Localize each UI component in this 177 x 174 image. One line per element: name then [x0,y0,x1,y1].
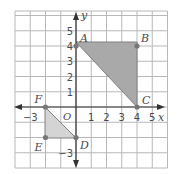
y-tick-label: −3 [58,148,73,159]
coordinate-plane: −312345 12345−3 x y O ABCDEF [0,0,177,174]
x-tick-label: 4 [134,112,140,123]
y-axis-label: y [80,9,88,22]
x-axis-arrow-right-icon [157,104,165,110]
point-label-f: F [34,93,43,106]
point-a [73,43,78,48]
point-c [134,104,139,109]
y-tick-label: 3 [67,56,73,67]
point-e [43,135,48,140]
y-axis-arrow-down-icon [73,160,79,168]
point-label-c: C [142,94,151,107]
x-axis-label: x [158,111,165,124]
x-tick-label: −3 [23,112,38,123]
y-tick-label: 1 [67,87,73,98]
point-b [134,43,139,48]
x-tick-label: 2 [103,112,109,123]
x-tick-label: 3 [119,112,125,123]
point-label-d: D [79,139,89,152]
point-label-a: A [79,32,88,45]
origin-label: O [63,111,71,122]
x-tick-label: 1 [88,112,94,123]
x-tick-labels: −312345 [23,112,156,123]
y-tick-label: 2 [67,72,73,83]
y-tick-label: 4 [67,41,73,52]
point-label-b: B [140,32,149,45]
point-label-e: E [34,141,43,154]
y-tick-label: 5 [67,26,73,37]
point-d [73,135,78,140]
x-tick-label: 5 [149,112,155,123]
point-f [43,104,48,109]
